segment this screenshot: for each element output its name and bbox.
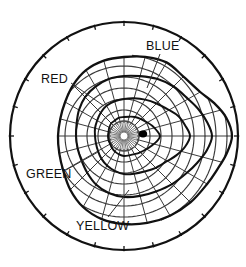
fixation-point-hub — [109, 121, 139, 151]
visual-field-figure: BLUE RED GREEN YELLOW — [0, 0, 246, 267]
isopter-label-red: RED — [41, 73, 68, 86]
isopter-label-blue: BLUE — [146, 40, 179, 53]
blind-spot-marker — [139, 131, 147, 138]
isopter-label-green: GREEN — [26, 168, 71, 181]
isopter-label-yellow: YELLOW — [76, 220, 129, 233]
